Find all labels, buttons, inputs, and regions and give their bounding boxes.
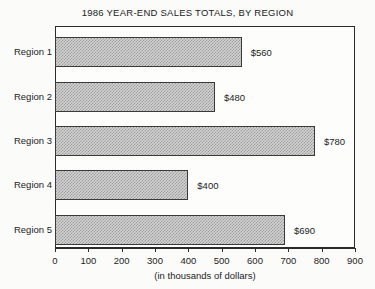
bar-value-label: $480 [215,91,245,102]
bar-2 [55,82,215,112]
bar-value-label: $780 [315,136,345,147]
x-tick-label: 0 [52,255,57,266]
x-tick [322,248,323,252]
x-tick [155,248,156,252]
x-tick [222,248,223,252]
category-label-1: Region 1 [2,46,52,57]
bar-row: $560 [55,37,355,67]
x-tick-label: 500 [214,255,230,266]
category-label-4: Region 4 [2,179,52,190]
x-tick-label: 600 [247,255,263,266]
category-label-3: Region 3 [2,135,52,146]
chart-title: 1986 YEAR-END SALES TOTALS, BY REGION [0,7,375,18]
bar-row: $400 [55,170,355,200]
x-tick [255,248,256,252]
x-tick [288,248,289,252]
category-label-2: Region 2 [2,91,52,102]
x-tick [355,248,356,252]
x-tick [55,248,56,252]
bar-5 [55,215,285,245]
x-tick [188,248,189,252]
bar-row: $480 [55,82,355,112]
category-label-5: Region 5 [2,224,52,235]
x-tick-label: 400 [180,255,196,266]
x-tick-label: 900 [347,255,363,266]
x-tick [88,248,89,252]
bar-value-label: $690 [285,224,315,235]
x-tick-label: 800 [314,255,330,266]
x-axis-title: (in thousands of dollars) [55,270,355,281]
x-tick-label: 700 [280,255,296,266]
bar-4 [55,170,188,200]
bar-value-label: $560 [242,47,272,58]
bar-1 [55,37,242,67]
x-axis [55,248,355,249]
x-tick [122,248,123,252]
bar-value-label: $400 [188,180,218,191]
bar-chart: 1986 YEAR-END SALES TOTALS, BY REGION $5… [0,0,375,289]
x-tick-label: 200 [114,255,130,266]
bar-row: $690 [55,215,355,245]
bar-row: $780 [55,126,355,156]
x-tick-label: 100 [80,255,96,266]
x-tick-label: 300 [147,255,163,266]
bar-3 [55,126,315,156]
